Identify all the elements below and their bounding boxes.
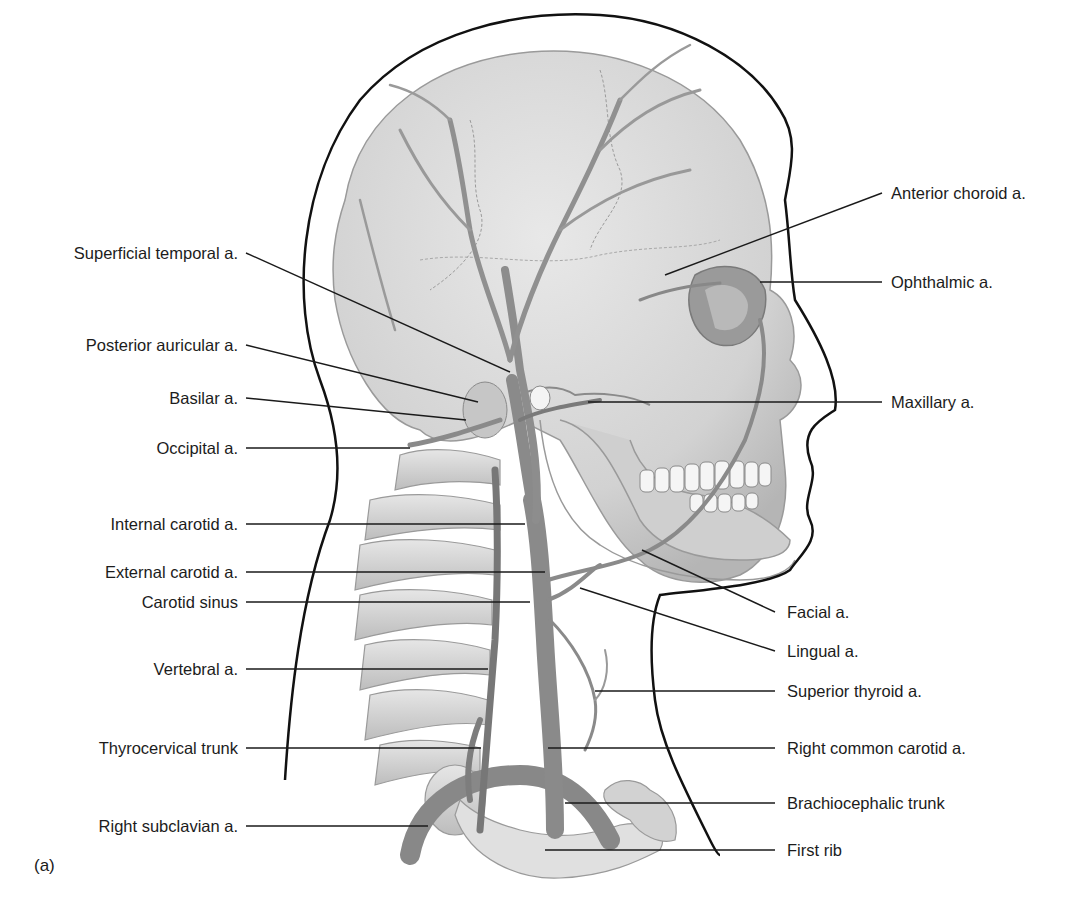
label-carotid-sinus: Carotid sinus: [142, 592, 238, 612]
label-facial-artery: Facial a.: [787, 602, 849, 622]
label-first-rib: First rib: [787, 840, 842, 860]
panel-label: (a): [34, 856, 55, 876]
label-external-carotid-artery: External carotid a.: [105, 562, 238, 582]
label-superior-thyroid-artery: Superior thyroid a.: [787, 681, 922, 701]
label-anterior-choroid-artery: Anterior choroid a.: [891, 183, 1026, 203]
label-internal-carotid-artery: Internal carotid a.: [111, 514, 239, 534]
label-vertebral-artery: Vertebral a.: [154, 659, 238, 679]
label-ophthalmic-artery: Ophthalmic a.: [891, 272, 993, 292]
label-maxillary-artery: Maxillary a.: [891, 392, 974, 412]
label-occipital-artery: Occipital a.: [156, 438, 238, 458]
label-right-common-carotid-artery: Right common carotid a.: [787, 738, 966, 758]
label-lingual-artery: Lingual a.: [787, 641, 859, 661]
label-basilar-artery: Basilar a.: [169, 388, 238, 408]
label-right-subclavian-artery: Right subclavian a.: [99, 816, 238, 836]
label-brachiocephalic-trunk: Brachiocephalic trunk: [787, 793, 945, 813]
label-thyrocervical-trunk: Thyrocervical trunk: [99, 738, 238, 758]
head-neck-arteries-illustration: [0, 0, 1080, 916]
label-posterior-auricular-artery: Posterior auricular a.: [86, 335, 238, 355]
label-superficial-temporal-artery: Superficial temporal a.: [74, 243, 238, 263]
